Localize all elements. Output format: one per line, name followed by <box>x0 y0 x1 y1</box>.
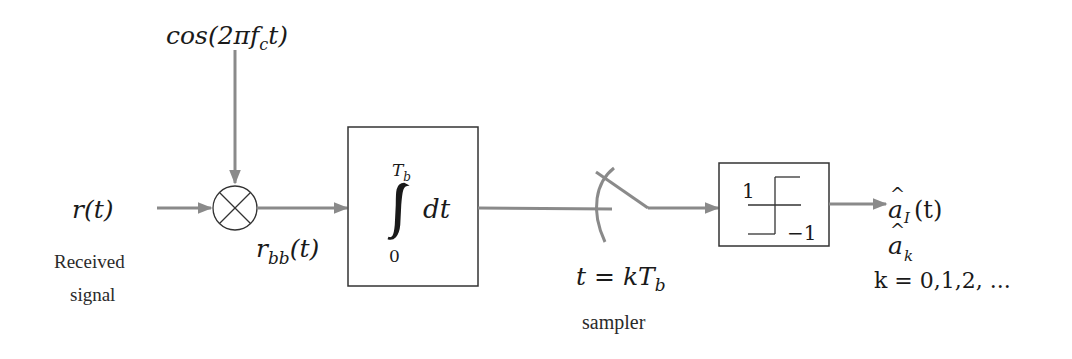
svg-text:(t): (t) <box>914 196 942 224</box>
svg-text:k: k <box>904 247 913 265</box>
decision-block: 1 −1 <box>719 163 829 246</box>
integral-lower-limit: 0 <box>389 246 400 266</box>
decision-lower-level: −1 <box>787 221 816 245</box>
integrand: dt <box>423 194 451 224</box>
block-diagram: cos(2πfct) r(t) Received signal rbb(t) T… <box>0 0 1072 359</box>
output-index: k = 0,1,2, ... <box>874 268 1011 293</box>
sampler-label: sampler <box>582 311 646 334</box>
svg-text:cos(2πfct): cos(2πfct) <box>166 21 288 54</box>
sampling-instant: t = kTb <box>576 262 666 295</box>
multiplier-icon <box>213 186 257 230</box>
baseband-signal-label: rbb(t) <box>256 234 319 268</box>
decision-upper-level: 1 <box>742 179 755 203</box>
input-label-line1: Received <box>54 251 125 272</box>
integrator-block: Tb 0 dt <box>348 127 478 286</box>
input-signal-symbol: r(t) <box>72 195 114 224</box>
input-label-line2: signal <box>70 284 115 305</box>
integrator-output-wire <box>478 208 612 209</box>
switch-icon <box>596 168 718 242</box>
svg-text:^: ^ <box>890 184 905 205</box>
carrier-label: cos(2πfct) <box>166 21 288 54</box>
svg-text:^: ^ <box>890 220 905 241</box>
